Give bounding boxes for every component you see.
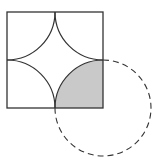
arc-bottom-left bbox=[7, 60, 55, 108]
shaded-quarter-region bbox=[55, 60, 103, 108]
arc-top-left bbox=[7, 12, 55, 60]
geometry-diagram bbox=[0, 0, 159, 163]
arc-top-right bbox=[55, 12, 103, 60]
